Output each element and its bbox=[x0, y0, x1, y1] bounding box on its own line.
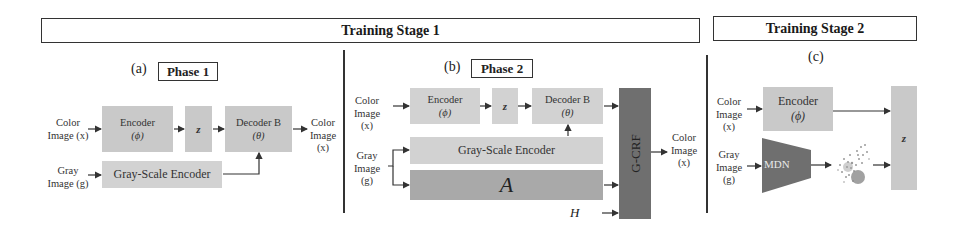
z-label: z bbox=[196, 123, 200, 136]
z-label: z bbox=[902, 132, 906, 145]
panel-b-gray-input-label: Gray Image (g) bbox=[350, 150, 384, 188]
label-line: (x) bbox=[306, 142, 340, 155]
label-line: Color bbox=[350, 95, 384, 108]
label-line: (x) bbox=[350, 120, 384, 133]
panel-a-letter: (a) bbox=[131, 61, 147, 77]
panel-b-h-label: H bbox=[570, 205, 579, 221]
decoder-title: Decoder B bbox=[545, 93, 590, 106]
label-line: Color bbox=[44, 117, 92, 130]
panel-b-gcrf-block: G-CRF bbox=[619, 88, 651, 219]
gray-encoder-label: Gray-Scale Encoder bbox=[458, 144, 555, 157]
label-line: Gray bbox=[350, 150, 384, 163]
panel-a-color-input-label: Color Image (x) bbox=[44, 117, 92, 142]
label-line: Image bbox=[711, 109, 747, 122]
label-line: Color bbox=[306, 117, 340, 130]
panel-a-decoder: Decoder B (θ) bbox=[225, 106, 292, 152]
z-label: z bbox=[503, 100, 507, 113]
panel-b-color-output-label: Color Image (x) bbox=[666, 132, 702, 170]
label-line: Image bbox=[350, 108, 384, 121]
panel-c-color-input-label: Color Image (x) bbox=[711, 96, 747, 134]
panel-b-letter: (b) bbox=[444, 59, 460, 75]
decoder-param: (θ) bbox=[561, 106, 573, 119]
panel-a-encoder: Encoder (ϕ) bbox=[102, 106, 173, 152]
encoder-title: Encoder bbox=[428, 93, 463, 106]
phase-2-text: Phase 2 bbox=[481, 61, 523, 77]
phase-2-label: Phase 2 bbox=[471, 59, 533, 78]
label-line: (x) bbox=[711, 121, 747, 134]
label-line: Image bbox=[666, 145, 702, 158]
decoder-title: Decoder B bbox=[236, 116, 281, 129]
label-line: Gray bbox=[711, 149, 747, 162]
encoder-param: (ϕ) bbox=[131, 129, 143, 142]
panel-b-color-input-label: Color Image (x) bbox=[350, 95, 384, 133]
label-line: Image (x) bbox=[44, 130, 92, 143]
panel-b-a-block: A bbox=[410, 170, 603, 200]
gray-encoder-label: Gray-Scale Encoder bbox=[114, 168, 211, 181]
panel-c-letter: (c) bbox=[808, 49, 824, 65]
label-line: (g) bbox=[711, 174, 747, 187]
label-line: Color bbox=[711, 96, 747, 109]
gcrf-label: G-CRF bbox=[629, 134, 642, 172]
label-line: (x) bbox=[666, 157, 702, 170]
panel-b-z-block: z bbox=[492, 88, 518, 124]
mdn-label: MDN bbox=[764, 158, 790, 170]
encoder-param: (ϕ) bbox=[439, 106, 451, 119]
encoder-title: Encoder bbox=[778, 94, 818, 109]
panel-b-encoder: Encoder (ϕ) bbox=[410, 88, 480, 124]
label-line: (g) bbox=[350, 175, 384, 188]
panel-b-gray-scale-encoder: Gray-Scale Encoder bbox=[410, 137, 603, 164]
panel-c-z-block: z bbox=[891, 86, 917, 190]
label-line: Color bbox=[666, 132, 702, 145]
label-line: Image bbox=[711, 162, 747, 175]
label-line: Image (g) bbox=[44, 178, 92, 191]
gaussian-mixture-scatter-icon bbox=[832, 137, 876, 193]
phase-1-text: Phase 1 bbox=[167, 64, 209, 80]
panel-a-gray-scale-encoder: Gray-Scale Encoder bbox=[102, 161, 222, 188]
panel-b-decoder: Decoder B (θ) bbox=[532, 88, 603, 124]
a-label: A bbox=[500, 173, 513, 197]
panel-c-encoder: Encoder (ϕ) bbox=[763, 87, 833, 131]
phase-1-label: Phase 1 bbox=[158, 62, 218, 81]
decoder-param: (θ) bbox=[252, 129, 264, 142]
panel-c-gray-input-label: Gray Image (g) bbox=[711, 149, 747, 187]
panel-a-gray-input-label: Gray Image (g) bbox=[44, 165, 92, 190]
encoder-title: Encoder bbox=[120, 116, 155, 129]
label-line: Gray bbox=[44, 165, 92, 178]
encoder-param: (ϕ) bbox=[791, 109, 805, 124]
panel-a-color-output-label: Color Image (x) bbox=[306, 117, 340, 155]
label-line: Image bbox=[350, 163, 384, 176]
panel-a-z-block: z bbox=[185, 106, 212, 152]
label-line: Image bbox=[306, 130, 340, 143]
